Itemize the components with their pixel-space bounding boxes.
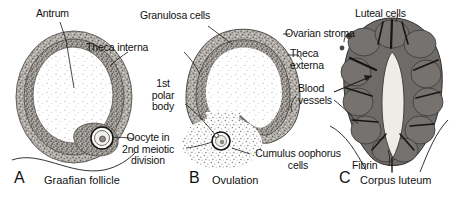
label-theca-interna: Theca interna [86, 42, 148, 54]
panel-letter-a: A [14, 170, 25, 186]
label-ovarian-stroma: Ovarian stroma [285, 28, 355, 40]
figure-artwork [0, 0, 452, 201]
oocyte-nucleus-b [220, 140, 224, 144]
panel-caption-b: Ovulation [212, 174, 258, 186]
first-polar-body-b [214, 133, 218, 137]
label-blood-vessels: Blood vessels [298, 83, 332, 106]
label-oocyte-second-meiotic-division: Oocyte in 2nd meiotic division [110, 132, 186, 167]
label-granulosa-cells: Granulosa cells [140, 10, 210, 22]
panel-letter-b: B [189, 170, 200, 186]
label-fibrin: Fibrin [352, 160, 377, 172]
label-theca-externa: Theca externa [290, 48, 324, 71]
label-antrum: Antrum [36, 8, 69, 20]
label-first-polar-body: 1st polar body [140, 78, 186, 113]
label-luteal-cells: Luteal cells [355, 8, 406, 20]
panel-letter-c: C [339, 170, 351, 186]
panel-caption-a: Graafian follicle [44, 174, 120, 186]
ovary-histology-figure: Antrum Theca interna Granulosa cells 1st… [0, 0, 452, 201]
label-cumulus-oophorus-cells: Cumulus oophorus cells [246, 148, 350, 171]
stroma-nodule-2 [340, 46, 345, 51]
panel-caption-c: Corpus luteum [360, 174, 432, 186]
oocyte-nucleus-a [100, 136, 106, 142]
